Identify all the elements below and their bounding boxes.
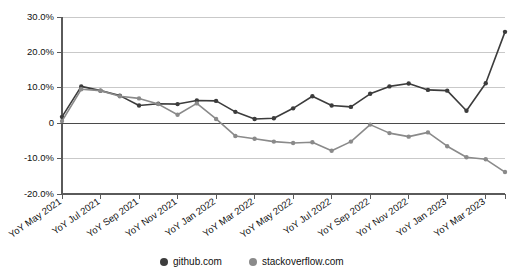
- data-point: [252, 117, 256, 121]
- data-point: [387, 84, 391, 88]
- data-point: [484, 157, 488, 161]
- data-point: [79, 87, 83, 91]
- data-point: [484, 81, 488, 85]
- data-point: [214, 117, 218, 121]
- data-point: [368, 122, 372, 126]
- data-point: [464, 109, 468, 113]
- data-series: [60, 30, 507, 175]
- data-point: [252, 137, 256, 141]
- data-point: [349, 139, 353, 143]
- data-point: [445, 88, 449, 92]
- data-point: [406, 81, 410, 85]
- chart-legend: github.comstackoverflow.com: [160, 256, 344, 267]
- axis-lines: [62, 17, 505, 194]
- series-line-stackoverflow.com: [62, 89, 505, 172]
- data-point: [175, 102, 179, 106]
- data-point: [156, 102, 160, 106]
- data-point: [137, 96, 141, 100]
- legend-marker-stackoverflow.com: [249, 258, 257, 266]
- legend-marker-github.com: [160, 258, 168, 266]
- data-point: [445, 144, 449, 148]
- data-point: [368, 92, 372, 96]
- data-point: [60, 119, 64, 123]
- data-point: [195, 101, 199, 105]
- chart-container: 30.0%20.0%10.0%0-10.0%-20.0% YoY May 202…: [0, 0, 513, 278]
- series-line-github.com: [62, 32, 505, 119]
- data-point: [118, 94, 122, 98]
- data-point: [272, 139, 276, 143]
- data-point: [175, 113, 179, 117]
- data-point: [426, 130, 430, 134]
- legend-label-stackoverflow.com: stackoverflow.com: [262, 256, 344, 267]
- data-point: [426, 88, 430, 92]
- line-chart: 30.0%20.0%10.0%0-10.0%-20.0% YoY May 202…: [0, 0, 513, 278]
- data-point: [387, 131, 391, 135]
- y-axis-tick-label: -20.0%: [24, 188, 55, 199]
- x-axis-labels: YoY May 2021YoY Jul 2021YoY Sep 2021YoY …: [7, 196, 487, 240]
- data-point: [137, 103, 141, 107]
- data-point: [503, 170, 507, 174]
- y-axis-tick-label: -10.0%: [24, 152, 55, 163]
- data-point: [503, 30, 507, 34]
- data-point: [291, 141, 295, 145]
- data-point: [349, 105, 353, 109]
- data-point: [310, 94, 314, 98]
- data-point: [214, 99, 218, 103]
- data-point: [291, 106, 295, 110]
- y-axis-tick-label: 10.0%: [27, 81, 54, 92]
- data-point: [329, 149, 333, 153]
- data-point: [98, 88, 102, 92]
- y-axis-tick-label: 20.0%: [27, 46, 54, 57]
- data-point: [233, 134, 237, 138]
- y-axis-tick-label: 0: [49, 117, 54, 128]
- legend-label-github.com: github.com: [173, 256, 222, 267]
- data-point: [406, 134, 410, 138]
- gridlines: [57, 17, 505, 194]
- data-point: [329, 103, 333, 107]
- y-axis-labels: 30.0%20.0%10.0%0-10.0%-20.0%: [24, 11, 55, 199]
- y-axis-tick-label: 30.0%: [27, 11, 54, 22]
- data-point: [233, 110, 237, 114]
- data-point: [464, 155, 468, 159]
- data-point: [272, 116, 276, 120]
- data-point: [310, 140, 314, 144]
